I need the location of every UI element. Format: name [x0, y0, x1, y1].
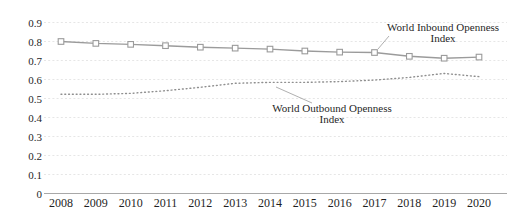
y-tick-label: 0	[37, 188, 43, 200]
outbound-series	[61, 73, 479, 94]
inbound-marker	[441, 55, 447, 61]
x-tick-label: 2012	[188, 196, 212, 210]
inbound-marker	[337, 49, 343, 55]
x-tick-label: 2019	[432, 196, 456, 210]
inbound-label-line2: Index	[430, 32, 456, 44]
y-tick-label: 0.5	[28, 93, 42, 105]
x-axis-labels: 2008200920102011201220132014201520162017…	[49, 196, 491, 210]
x-tick-label: 2018	[397, 196, 421, 210]
y-tick-label: 0.4	[28, 112, 42, 124]
inbound-leader-line	[378, 36, 389, 49]
annotation-inbound: World Inbound Openness Index	[378, 21, 499, 49]
inbound-series	[58, 39, 482, 61]
x-tick-label: 2010	[119, 196, 143, 210]
chart-figure: 00.10.20.30.40.50.60.70.80.9 20082009201…	[0, 0, 520, 218]
outbound-leader-line	[276, 87, 312, 103]
inbound-marker	[58, 39, 64, 45]
outbound-line	[61, 73, 479, 94]
x-tick-label: 2013	[223, 196, 247, 210]
x-tick-label: 2008	[49, 196, 73, 210]
y-tick-label: 0.9	[28, 17, 42, 29]
chart-svg: 00.10.20.30.40.50.60.70.80.9 20082009201…	[0, 0, 520, 218]
y-tick-label: 0.1	[28, 169, 42, 181]
y-tick-label: 0.8	[28, 36, 42, 48]
x-tick-label: 2015	[293, 196, 317, 210]
x-tick-label: 2020	[467, 196, 491, 210]
x-tick-label: 2017	[363, 196, 387, 210]
inbound-marker	[267, 46, 273, 52]
x-tick-label: 2016	[328, 196, 352, 210]
y-tick-label: 0.6	[28, 74, 42, 86]
inbound-marker	[476, 54, 482, 60]
inbound-marker	[232, 45, 238, 51]
inbound-marker	[93, 41, 99, 47]
inbound-marker	[198, 44, 204, 50]
y-tick-label: 0.2	[28, 150, 42, 162]
annotation-outbound: World Outbound Openness Index	[272, 87, 392, 125]
x-tick-label: 2009	[84, 196, 108, 210]
inbound-marker	[128, 42, 134, 48]
inbound-marker	[372, 50, 378, 56]
y-axis-labels: 00.10.20.30.40.50.60.70.80.9	[28, 17, 42, 200]
x-tick-label: 2011	[154, 196, 178, 210]
inbound-marker	[163, 43, 169, 49]
y-tick-label: 0.7	[28, 55, 42, 67]
inbound-marker	[302, 48, 308, 54]
y-tick-label: 0.3	[28, 131, 42, 143]
outbound-label-line2: Index	[319, 113, 345, 125]
inbound-marker	[407, 54, 413, 60]
x-tick-label: 2014	[258, 196, 282, 210]
